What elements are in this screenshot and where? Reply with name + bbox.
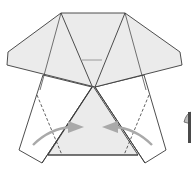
partial-symbol-right-edge bbox=[184, 112, 191, 143]
top-flap bbox=[7, 13, 182, 87]
origami-diagram bbox=[0, 0, 191, 171]
